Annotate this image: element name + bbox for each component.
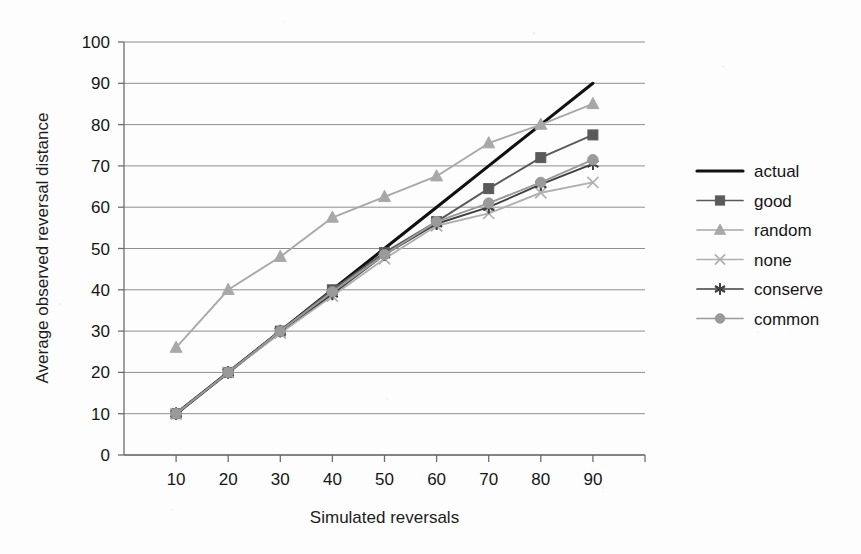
legend: actualgoodrandomnoneconservecommon: [697, 162, 823, 329]
y-tick-label: 20: [91, 363, 110, 382]
x-tick-label: 80: [531, 470, 550, 489]
marker-square: [588, 130, 598, 140]
legend-label-none: none: [754, 251, 792, 270]
y-tick-label: 0: [101, 446, 110, 465]
legend-label-common: common: [754, 310, 819, 329]
legend-label-actual: actual: [754, 162, 799, 181]
legend-label-random: random: [754, 221, 812, 240]
x-tick-label: 40: [323, 470, 342, 489]
marker-circle: [536, 177, 546, 187]
data-series-group: [170, 83, 599, 420]
legend-item-actual[interactable]: actual: [697, 162, 799, 181]
legend-item-none[interactable]: none: [697, 251, 792, 270]
y-tick-label: 100: [82, 33, 110, 52]
marker-circle: [431, 216, 441, 226]
marker-circle: [484, 198, 494, 208]
series-random: [170, 97, 599, 352]
x-tick-label: 50: [375, 470, 394, 489]
marker-circle: [223, 367, 233, 377]
legend-item-common[interactable]: common: [697, 310, 819, 329]
y-tick-label: 70: [91, 157, 110, 176]
marker-circle: [171, 409, 181, 419]
y-tick-label: 90: [91, 74, 110, 93]
y-axis-title: Average observed reversal distance: [33, 113, 52, 384]
marker-circle: [327, 287, 337, 297]
legend-item-random[interactable]: random: [697, 221, 812, 240]
series-line-random: [176, 104, 593, 348]
series-none: [171, 177, 599, 419]
marker-triangle: [274, 250, 286, 261]
marker-square: [715, 196, 724, 205]
x-tick-labels: 102030405060708090: [167, 470, 603, 489]
marker-triangle: [587, 97, 599, 108]
legend-item-conserve[interactable]: conserve: [697, 280, 823, 299]
marker-square: [536, 153, 546, 163]
marker-triangle: [222, 283, 234, 294]
x-tick-label: 60: [427, 470, 446, 489]
marker-square: [484, 184, 494, 194]
x-axis-title: Simulated reversals: [310, 508, 459, 527]
chart-canvas: 0102030405060708090100 10203040506070809…: [0, 0, 861, 554]
y-tick-label: 30: [91, 322, 110, 341]
marker-triangle: [431, 170, 443, 181]
x-tick-label: 20: [219, 470, 238, 489]
marker-circle: [275, 326, 285, 336]
series-line-good: [176, 135, 593, 414]
y-tick-label: 50: [91, 240, 110, 259]
y-tick-label: 40: [91, 281, 110, 300]
marker-circle: [588, 155, 598, 165]
legend-item-good[interactable]: good: [697, 192, 792, 211]
legend-label-good: good: [754, 192, 792, 211]
x-tick-label: 10: [167, 470, 186, 489]
x-tick-label: 90: [583, 470, 602, 489]
series-good: [171, 130, 598, 419]
y-tick-label: 60: [91, 198, 110, 217]
x-tick-label: 30: [271, 470, 290, 489]
marker-circle: [379, 249, 389, 259]
y-tick-label: 10: [91, 405, 110, 424]
y-tick-label: 80: [91, 116, 110, 135]
x-tick-label: 70: [479, 470, 498, 489]
chart-figure: 0102030405060708090100 10203040506070809…: [0, 0, 861, 554]
y-tick-labels: 0102030405060708090100: [82, 33, 110, 465]
legend-label-conserve: conserve: [754, 280, 823, 299]
series-line-none: [176, 182, 593, 413]
marker-circle: [715, 314, 725, 324]
